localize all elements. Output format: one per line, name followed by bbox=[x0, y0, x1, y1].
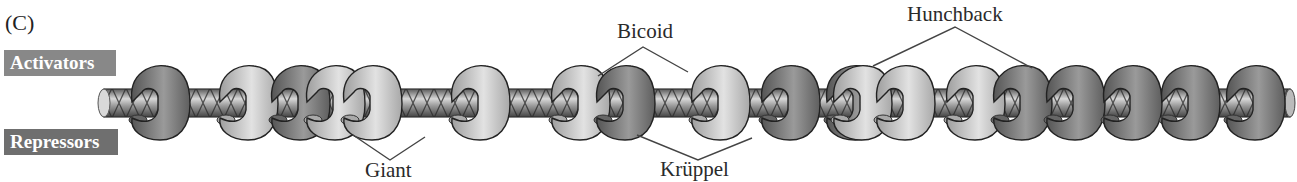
label-giant: Giant bbox=[365, 158, 412, 182]
label-bicoid: Bicoid bbox=[617, 19, 673, 44]
hunchback-leader bbox=[873, 27, 1032, 68]
enhancer-diagram: (C) Activators Repressors bbox=[0, 0, 1297, 182]
label-hunchback: Hunchback bbox=[907, 2, 1003, 27]
label-kruppel: Krüppel bbox=[660, 157, 729, 182]
